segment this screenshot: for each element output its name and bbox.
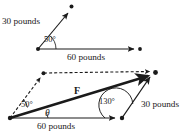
- top-angle-50-label: 50°: [44, 36, 56, 44]
- top-60-pound-vector: [36, 47, 142, 51]
- bottom-label-30-pounds: 30 pounds: [141, 100, 179, 109]
- angle-130-label: 130°: [99, 98, 115, 106]
- bottom-angle-50-label: 50°: [21, 101, 33, 109]
- resultant-label-F: F: [74, 86, 80, 96]
- bottom-label-60-pounds: 60 pounds: [37, 122, 75, 131]
- top-label-60-pounds: 60 pounds: [67, 53, 105, 62]
- bottom-60-pound-vector: [8, 116, 124, 120]
- theta-label: θ: [45, 108, 50, 118]
- bottom-dashed-parallelogram-top: [44, 72, 150, 74]
- top-label-30-pounds: 30 pounds: [2, 17, 40, 26]
- bottom-dashed-30-pound-vector: [10, 71, 46, 118]
- resultant-force-vector: [10, 70, 158, 118]
- figure-canvas: 30 pounds 50° 60 pounds 50° F θ 130° 30 …: [0, 0, 192, 136]
